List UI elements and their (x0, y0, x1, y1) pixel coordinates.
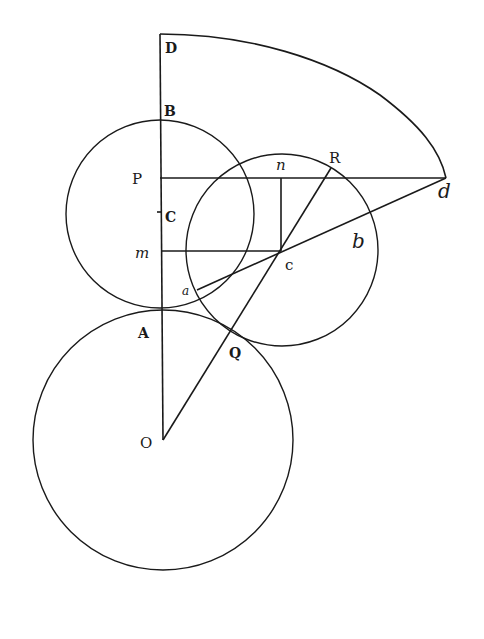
label-n: n (276, 156, 286, 174)
label-A: A (137, 325, 150, 341)
line-a-d (197, 178, 446, 290)
label-P: P (132, 170, 142, 188)
line-D-O (160, 34, 163, 440)
label-b: b (352, 229, 365, 253)
label-R: R (329, 149, 341, 167)
label-m: m (135, 244, 149, 262)
label-B: B (164, 103, 176, 119)
label-O: O (140, 434, 152, 452)
label-C: C (165, 209, 176, 225)
label-d: d (438, 179, 451, 203)
label-D: D (165, 40, 177, 56)
circle-c (186, 154, 378, 346)
circle-C (66, 120, 254, 308)
geometry-diagram: D B P C m a A Q O n R c b d (0, 0, 484, 639)
label-Q: Q (229, 345, 241, 361)
label-a: a (182, 284, 189, 298)
label-c: c (285, 256, 293, 274)
